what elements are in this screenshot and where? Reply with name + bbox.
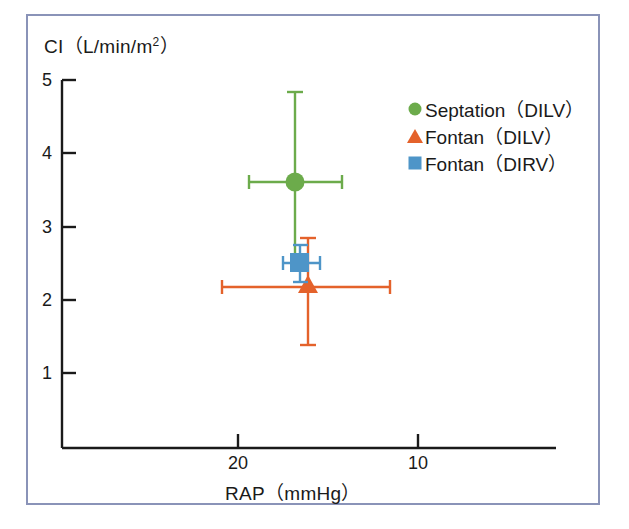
plot-area xyxy=(0,0,629,529)
legend-item-fontan-dilv[interactable]: Fontan（DILV） xyxy=(406,123,584,148)
legend-label-fontan-dilv: Fontan（DILV） xyxy=(424,122,563,149)
legend-item-septation-dilv[interactable]: Septation（DILV） xyxy=(406,96,584,121)
legend-square-icon xyxy=(406,152,424,174)
fontan-dirv-marker xyxy=(290,253,309,272)
figure-container: CI（L/min/m2） RAP（mmHg） 5 4 3 2 1 20 10 xyxy=(0,0,629,529)
series-fontan-dirv xyxy=(283,245,320,282)
legend-triangle-icon xyxy=(406,125,424,147)
septation-dilv-marker xyxy=(286,173,305,192)
chart-legend: Septation（DILV） Fontan（DILV） Fontan（DIRV… xyxy=(406,96,584,175)
legend-item-fontan-dirv[interactable]: Fontan（DIRV） xyxy=(406,150,584,175)
legend-label-septation-dilv: Septation（DILV） xyxy=(424,95,584,122)
legend-label-fontan-dirv: Fontan（DIRV） xyxy=(424,149,567,176)
legend-circle-icon xyxy=(406,98,424,120)
series-septation-dilv xyxy=(249,92,342,268)
